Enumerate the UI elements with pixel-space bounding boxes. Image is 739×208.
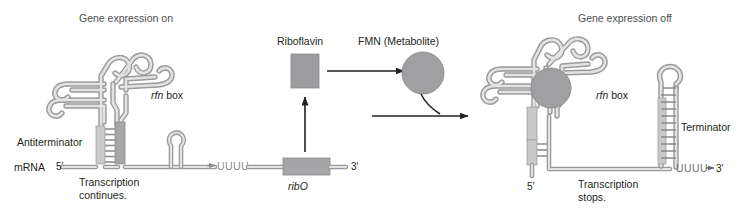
right-three-prime-label: 3′: [716, 163, 724, 174]
terminator-strand-left: [658, 98, 666, 164]
right-panel-title: Gene expression off: [578, 12, 672, 24]
right-caption-line2: stops.: [578, 191, 606, 203]
right-rfn-rest: box: [608, 89, 629, 101]
riboflavin-label: Riboflavin: [277, 35, 323, 47]
right-rfn-italic: rfn: [596, 89, 608, 101]
right-antiterminator-strand-lower: [527, 140, 537, 165]
riboflavin-square: [291, 54, 319, 88]
left-rfn-rest: box: [163, 89, 184, 101]
left-caption-line1: Transcription: [79, 176, 139, 188]
antiterminator-strand-right: [115, 122, 125, 164]
ribo-gene-box: [283, 158, 330, 175]
riboswitch-diagram: Gene expression on: [0, 0, 739, 208]
bound-fmn-circle: [531, 68, 571, 108]
antiterminator-base-pairs: [105, 129, 115, 162]
right-caption-line1: Transcription: [578, 178, 638, 190]
left-caption-line2: continues.: [79, 189, 127, 201]
right-five-prime-label: 5′: [527, 181, 535, 192]
left-five-prime-label: 5′: [56, 161, 64, 172]
ribo-gene-label: ribO: [288, 180, 308, 192]
mrna-label: mRNA: [14, 161, 45, 173]
left-rfn-italic: rfn: [151, 89, 163, 101]
middle-three-prime-label: 3′: [351, 161, 359, 172]
terminator-label: Terminator: [681, 121, 731, 133]
fmn-label: FMN (Metabolite): [358, 35, 439, 47]
left-polyu-label: UUUU: [217, 160, 249, 172]
fmn-circle: [402, 52, 444, 94]
right-rfn-box-label: rfn box: [596, 89, 629, 101]
right-polyu-label: UUUU: [676, 162, 708, 174]
right-antiterminator-strand: [527, 107, 537, 140]
antiterminator-strand-left: [96, 126, 105, 164]
left-panel-title: Gene expression on: [79, 12, 173, 24]
antiterminator-label: Antiterminator: [17, 136, 83, 148]
left-rfn-box-label: rfn box: [151, 89, 184, 101]
